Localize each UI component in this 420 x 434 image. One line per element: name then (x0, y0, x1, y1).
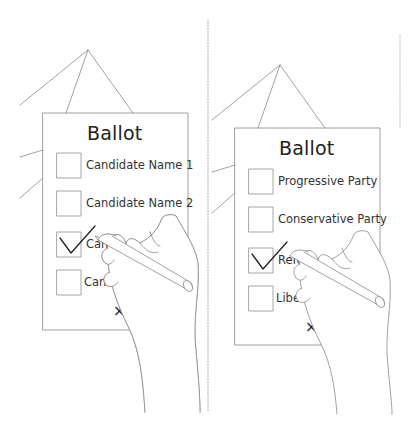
hand-overlay-left (0, 0, 420, 434)
ballot-illustration: Ballot Candidate Name 1 Candidate Name 2… (0, 0, 420, 434)
